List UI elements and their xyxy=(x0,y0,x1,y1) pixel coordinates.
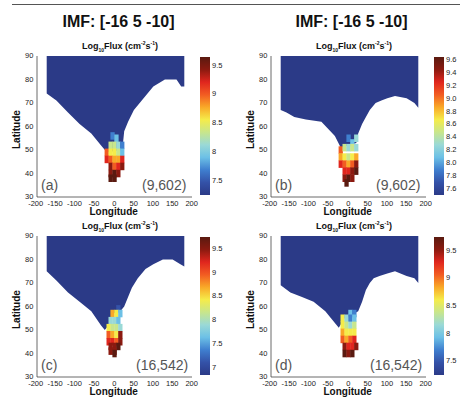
y-tick-label: 80 xyxy=(25,75,33,84)
colorbar-tick-label: 8.0 xyxy=(446,158,456,167)
cusp-cell xyxy=(348,315,352,323)
x-tick-label: 150 xyxy=(400,379,413,388)
x-tick-label: 100 xyxy=(147,379,160,388)
x-tick-label: 100 xyxy=(147,199,160,208)
x-axis-label: Longitude xyxy=(324,386,372,397)
y-tick-label: 80 xyxy=(25,255,33,264)
cusp-cell xyxy=(350,350,354,358)
cusp-cell xyxy=(350,160,354,168)
y-tick-label: 70 xyxy=(25,98,33,107)
cusp-cell xyxy=(354,153,358,161)
cusp-cell xyxy=(348,322,352,330)
cusp-cell xyxy=(105,149,109,157)
cusp-cell xyxy=(112,156,116,164)
cusp-cell xyxy=(343,144,347,152)
y-tick-label: 90 xyxy=(25,51,33,60)
cusp-cell xyxy=(116,343,120,351)
colorbar-tick-label: 8.5 xyxy=(446,301,456,310)
cusp-cell xyxy=(118,331,122,339)
colorbar-tick-label: 8.2 xyxy=(446,145,456,154)
cusp-cell xyxy=(344,322,348,330)
cusp-cell xyxy=(109,156,113,164)
colorbar-tick-label: 9.2 xyxy=(446,81,456,90)
cusp-cell xyxy=(114,324,118,332)
sample-count-annotation: (9,602) xyxy=(376,177,420,193)
y-tick-label: 50 xyxy=(25,145,33,154)
colorbar-tick-label: 9 xyxy=(212,268,216,277)
y-tick-label: 60 xyxy=(25,122,33,131)
cusp-cell xyxy=(343,167,347,175)
cusp-cell xyxy=(116,317,120,325)
x-axis-label: Longitude xyxy=(90,206,138,217)
x-axis-label: Longitude xyxy=(90,386,138,397)
colorbar-tick-label: 8 xyxy=(212,315,216,324)
cusp-cell xyxy=(354,135,358,143)
cusp-cell xyxy=(339,160,343,168)
cusp-cell xyxy=(107,324,111,332)
y-axis-label: Latitude xyxy=(11,110,22,149)
y-tick-label: 40 xyxy=(259,169,267,178)
y-tick-label: 80 xyxy=(259,75,267,84)
panel-label: (d) xyxy=(275,357,292,373)
colorbar-tick-label: 8 xyxy=(446,329,450,338)
y-tick-label: 70 xyxy=(259,278,267,287)
cusp-cell xyxy=(110,331,114,339)
y-tick-label: 60 xyxy=(259,302,267,311)
x-tick-label: 200 xyxy=(185,379,198,388)
cusp-cell xyxy=(339,146,343,154)
colorbar-tick-label: 9 xyxy=(212,89,216,98)
x-tick-label: 100 xyxy=(381,199,394,208)
cusp-cell xyxy=(341,315,345,323)
cusp-cell xyxy=(352,322,356,330)
colorbar-tick-label: 7.6 xyxy=(446,184,456,193)
x-tick-label: -100 xyxy=(301,379,316,388)
right-column-title: IMF: [-16 5 -10] xyxy=(233,13,470,31)
y-tick-label: 40 xyxy=(25,349,33,358)
x-tick-label: 200 xyxy=(185,199,198,208)
cusp-cell xyxy=(339,153,343,161)
cusp-cell xyxy=(112,149,116,157)
cusp-cell xyxy=(350,175,354,183)
y-tick-label: 90 xyxy=(259,231,267,240)
heatmap-plot xyxy=(0,40,237,220)
cusp-cell xyxy=(110,324,114,332)
cusp-cell xyxy=(350,144,354,152)
x-tick-label: -150 xyxy=(282,199,297,208)
x-tick-label: -200 xyxy=(28,199,43,208)
colorbar-tick-label: 8.4 xyxy=(446,132,456,141)
cusp-cell xyxy=(341,322,345,330)
y-tick-label: 70 xyxy=(259,98,267,107)
colorbar-tick-label: 9.4 xyxy=(446,68,456,77)
cusp-cell xyxy=(120,156,124,164)
colorbar-tick-label: 7.5 xyxy=(212,339,222,348)
x-tick-label: 150 xyxy=(166,379,179,388)
y-tick-label: 60 xyxy=(259,122,267,131)
colorbar-tick-label: 9.0 xyxy=(446,94,456,103)
x-tick-label: 150 xyxy=(166,199,179,208)
cusp-cell xyxy=(352,315,356,323)
cusp-cell xyxy=(346,153,350,161)
cusp-cell xyxy=(352,329,356,337)
cusp-cell xyxy=(346,350,350,358)
colorbar-tick-label: 7 xyxy=(212,363,216,372)
panel-label: (b) xyxy=(275,177,292,193)
cusp-cell xyxy=(346,135,350,143)
colorbar xyxy=(200,237,210,375)
cusp-cell xyxy=(341,336,345,344)
cusp-cell xyxy=(346,343,350,351)
y-tick-label: 50 xyxy=(25,325,33,334)
cusp-cell xyxy=(116,149,120,157)
cusp-cell xyxy=(109,317,113,325)
left-column-title: IMF: [-16 5 -10] xyxy=(0,13,237,31)
y-tick-label: 50 xyxy=(259,145,267,154)
cusp-cell xyxy=(343,350,347,358)
panel-d: Log10Flux (cm-2s-1)7.588.599.53040506070… xyxy=(234,220,471,400)
cusp-cell xyxy=(354,160,358,168)
colorbar-tick-label: 8.8 xyxy=(446,107,456,116)
x-axis-label: Longitude xyxy=(324,206,372,217)
cusp-cell xyxy=(343,153,347,161)
cusp-cell xyxy=(112,163,116,171)
cusp-cell xyxy=(116,170,120,178)
colorbar xyxy=(200,57,210,195)
panel-c: Log10Flux (cm-2s-1)77.588.599.5304050607… xyxy=(0,220,237,400)
